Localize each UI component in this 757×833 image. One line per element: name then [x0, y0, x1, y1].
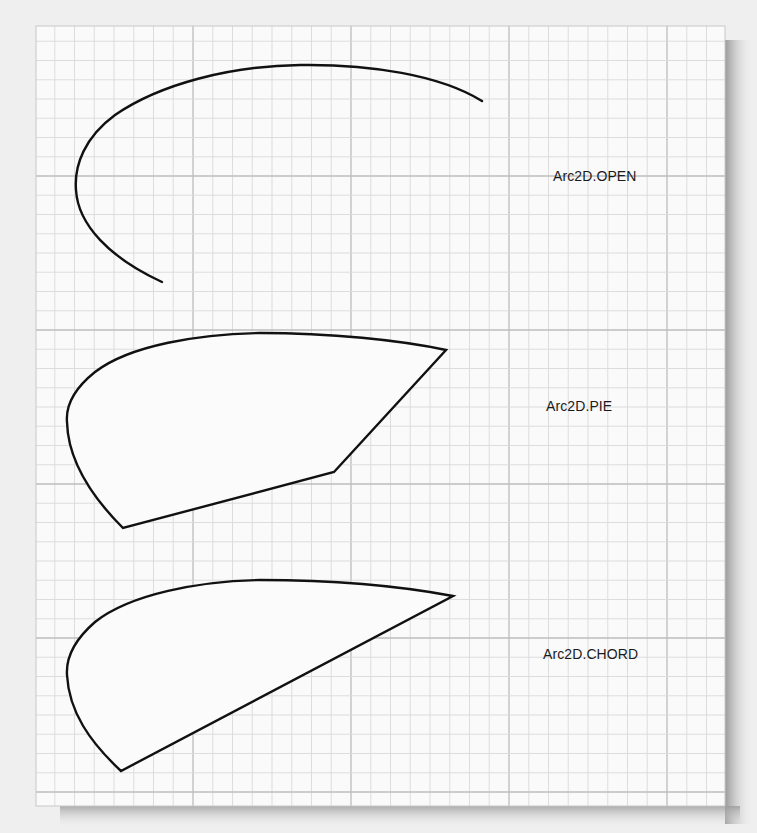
paper-shadow-right: [725, 40, 753, 824]
label-arc-chord: Arc2D.CHORD: [543, 646, 638, 662]
paper-shadow-bottom: [60, 806, 740, 828]
graph-paper-figure: [0, 0, 757, 833]
label-arc-open: Arc2D.OPEN: [553, 168, 636, 184]
label-arc-pie: Arc2D.PIE: [546, 398, 612, 414]
